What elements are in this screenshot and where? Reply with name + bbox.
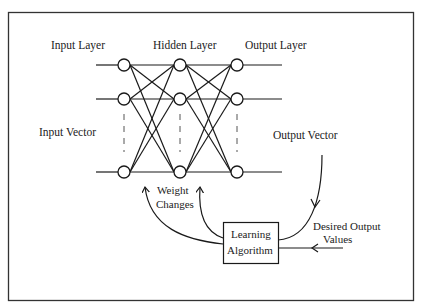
input-layer-label: Input Layer: [51, 39, 105, 52]
weight-changes-label-1: Weight: [157, 184, 189, 196]
desired-output-arrow: [278, 244, 343, 252]
desired-output-label-1: Desired Output: [313, 220, 381, 232]
learning-algorithm-label-1: Learning: [231, 228, 271, 240]
input-node: [118, 59, 130, 71]
desired-output-label-2: Values: [323, 233, 352, 245]
input-node: [118, 166, 130, 178]
input-node: [118, 93, 130, 105]
learning-algorithm-label-2: Algorithm: [227, 244, 273, 256]
hidden-layer-label: Hidden Layer: [153, 39, 217, 52]
neural-network-diagram: Input Layer Hidden Layer Output Layer In…: [0, 0, 422, 308]
hidden-node: [174, 93, 186, 105]
output-vector-label: Output Vector: [273, 129, 338, 142]
output-node: [231, 59, 243, 71]
output-node: [231, 93, 243, 105]
output-layer-label: Output Layer: [245, 39, 307, 52]
hidden-node: [174, 166, 186, 178]
input-vector-label: Input Vector: [39, 126, 96, 139]
figure-border: [9, 13, 414, 301]
output-node: [231, 166, 243, 178]
weight-changes-label-2: Changes: [156, 198, 194, 210]
hidden-node: [174, 59, 186, 71]
